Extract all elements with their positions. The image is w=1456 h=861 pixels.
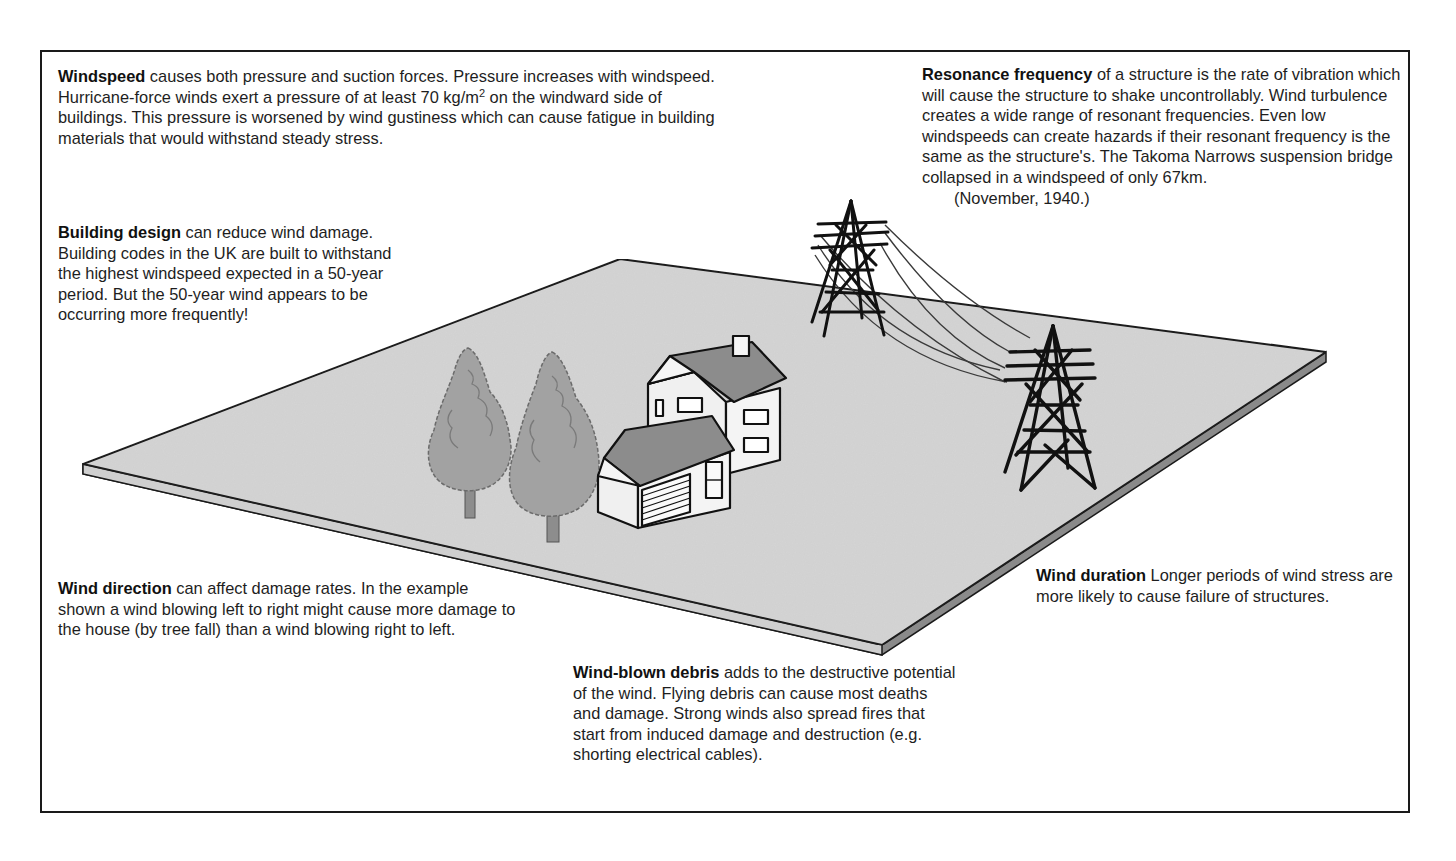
note-resonance-date: (November, 1940.) — [922, 188, 1402, 209]
note-wind-direction-title: Wind direction — [58, 579, 172, 597]
note-resonance-frequency: Resonance frequency of a structure is th… — [922, 64, 1402, 208]
note-building-design: Building design can reduce wind damage. … — [58, 222, 418, 325]
note-building-design-title: Building design — [58, 223, 181, 241]
note-wind-duration: Wind duration Longer periods of wind str… — [1036, 565, 1396, 606]
note-wind-duration-title: Wind duration — [1036, 566, 1146, 584]
note-wind-direction: Wind direction can affect damage rates. … — [58, 578, 518, 640]
note-wind-blown-debris-title: Wind-blown debris — [573, 663, 719, 681]
note-windspeed-title: Windspeed — [58, 67, 145, 85]
note-wind-blown-debris: Wind-blown debris adds to the destructiv… — [573, 662, 958, 765]
note-resonance-frequency-title: Resonance frequency — [922, 65, 1092, 83]
note-windspeed: Windspeed causes both pressure and sucti… — [58, 66, 718, 148]
